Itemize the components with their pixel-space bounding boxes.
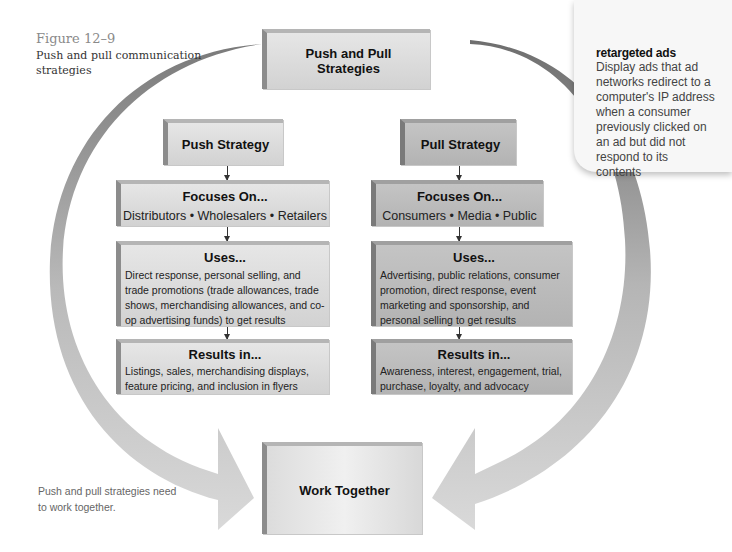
push-uses-body: Direct response, personal selling, and t… xyxy=(121,268,329,328)
push-uses-box: Uses... Direct response, personal sellin… xyxy=(116,241,329,326)
side-caption: Push and pull strategies need to work to… xyxy=(38,483,178,515)
push-results-box: Results in... Listings, sales, merchandi… xyxy=(116,339,329,394)
pull-results-body: Awareness, interest, engagement, trial, … xyxy=(376,364,572,394)
pull-uses-body: Advertising, public relations, consumer … xyxy=(376,268,572,328)
push-pull-strategies-box: Push and Pull Strategies xyxy=(262,29,430,89)
work-together-label: Work Together xyxy=(299,483,390,498)
push-focuses-heading: Focuses On... xyxy=(121,189,329,204)
push-strategy-box: Push Strategy xyxy=(163,119,283,165)
pull-results-box: Results in... Awareness, interest, engag… xyxy=(371,339,572,394)
margin-note-term: retargeted ads xyxy=(596,46,732,60)
push-uses-heading: Uses... xyxy=(121,250,329,265)
pull-uses-heading: Uses... xyxy=(376,250,572,265)
pull-focuses-heading: Focuses On... xyxy=(376,189,543,204)
figure-number: Figure 12–9 xyxy=(36,31,115,46)
pull-results-heading: Results in... xyxy=(376,347,572,362)
pull-strategy-label: Pull Strategy xyxy=(421,137,500,152)
margin-note-definition: Display ads that ad networks redirect to… xyxy=(596,60,716,180)
push-strategy-label: Push Strategy xyxy=(182,137,269,152)
arrow-down-icon xyxy=(227,227,228,241)
arrow-down-icon xyxy=(459,327,460,339)
push-pull-strategies-label: Push and Pull Strategies xyxy=(287,46,410,76)
arrow-down-icon xyxy=(227,166,228,180)
arrow-down-icon xyxy=(459,166,460,180)
arrow-down-icon xyxy=(459,227,460,241)
pull-strategy-box: Pull Strategy xyxy=(400,119,516,165)
pull-uses-box: Uses... Advertising, public relations, c… xyxy=(371,241,572,326)
pull-focuses-body: Consumers • Media • Public xyxy=(376,209,543,224)
push-results-body: Listings, sales, merchandising displays,… xyxy=(121,364,329,394)
push-results-heading: Results in... xyxy=(121,347,329,362)
push-focuses-body: Distributors • Wholesalers • Retailers xyxy=(121,209,329,224)
arrow-down-icon xyxy=(227,327,228,339)
push-focuses-box: Focuses On... Distributors • Wholesalers… xyxy=(116,180,329,226)
work-together-box: Work Together xyxy=(262,442,422,534)
figure-title: Push and pull communication strategies xyxy=(36,48,206,78)
pull-focuses-box: Focuses On... Consumers • Media • Public xyxy=(371,180,543,226)
margin-note: retargeted ads Display ads that ad netwo… xyxy=(574,0,732,172)
